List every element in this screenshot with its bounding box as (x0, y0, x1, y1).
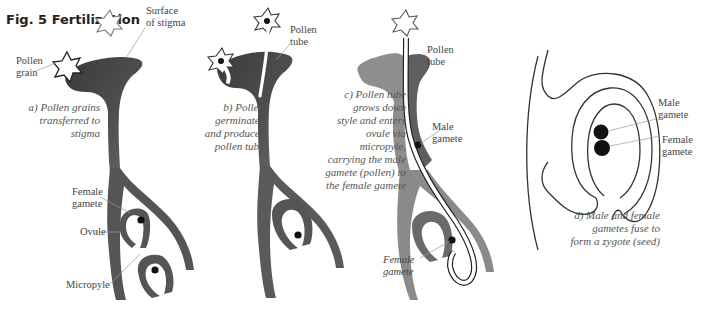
caption-line: micropyle, (318, 140, 406, 153)
pollen-grain-icon (392, 10, 418, 36)
female-gamete-dot (294, 231, 301, 238)
label-pollen-grain: Pollen grain (16, 55, 43, 79)
label-line: grain (16, 67, 43, 79)
label-line: Female (662, 134, 693, 146)
label-line: gamete (432, 133, 462, 145)
label-line: Surface (146, 5, 185, 17)
label-line: Pollen (16, 55, 43, 67)
pollen-grain-icon (96, 10, 122, 36)
label-line: gamete (658, 109, 688, 121)
label-line: gamete (383, 266, 415, 278)
caption-line: transferred to (20, 114, 100, 127)
female-gamete-icon (594, 140, 610, 156)
caption-line: gamete (pollen) to (318, 166, 406, 179)
caption-line: grows down (318, 101, 406, 114)
caption-line: c) Pollen tube (318, 88, 406, 101)
label-female-gamete-c: Female gamete (383, 254, 415, 278)
caption-line: style and enters (318, 114, 406, 127)
caption-line: the female gamete (318, 179, 406, 192)
caption-line: a) Pollen grains (20, 101, 100, 114)
caption-panel-b: b) Pollen germinates and produces pollen… (186, 101, 264, 153)
caption-line: and produces (186, 127, 264, 140)
label-line: tube (290, 36, 317, 48)
label-line: Pollen (290, 24, 317, 36)
caption-line: form a zygote (seed) (568, 235, 660, 248)
panel-a-pistil (36, 10, 194, 300)
label-pollen-tube-c: Pollen tube (427, 44, 454, 68)
caption-panel-a: a) Pollen grains transferred to stigma (20, 101, 100, 140)
caption-panel-c: c) Pollen tube grows down style and ente… (318, 88, 406, 192)
female-gamete-dot (448, 236, 455, 243)
label-line: gamete (662, 146, 693, 158)
label-pollen-tube-b: Pollen tube (290, 24, 317, 48)
caption-line: carrying the male (318, 153, 406, 166)
label-line: Female (383, 254, 415, 266)
caption-line: ovule via (318, 127, 406, 140)
label-line: gamete (72, 198, 103, 210)
caption-line: pollen tube (186, 140, 264, 153)
female-gamete-dot (151, 266, 158, 273)
label-line: Pollen (427, 44, 454, 56)
label-male-gamete-c: Male gamete (432, 121, 462, 145)
label-line: Male (658, 97, 688, 109)
caption-line: d) Male and female (568, 209, 660, 222)
caption-line: b) Pollen (186, 101, 264, 114)
caption-line: gametes fuse to (568, 222, 660, 235)
label-female-gamete-a: Female gamete (72, 186, 103, 210)
label-micropyle: Micropyle (66, 279, 110, 291)
label-ovule: Ovule (80, 226, 106, 238)
label-line: of stigma (146, 17, 185, 29)
label-female-gamete-d: Female gamete (662, 134, 693, 158)
male-gamete-dot (415, 142, 422, 149)
female-gamete-dot (137, 216, 144, 223)
label-line: Male (432, 121, 462, 133)
label-line: tube (427, 56, 454, 68)
male-gamete-icon (594, 125, 609, 140)
caption-panel-d: d) Male and female gametes fuse to form … (568, 209, 660, 248)
label-line: Female (72, 186, 103, 198)
caption-line: stigma (20, 127, 100, 140)
caption-line: germinates (186, 114, 264, 127)
label-male-gamete-d: Male gamete (658, 97, 688, 121)
label-surface-of-stigma: Surface of stigma (146, 5, 185, 29)
